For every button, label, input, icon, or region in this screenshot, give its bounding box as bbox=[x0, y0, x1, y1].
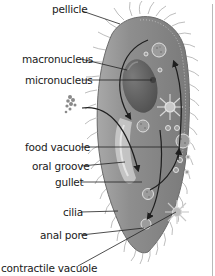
label-macronucleus: macronucleus bbox=[22, 53, 93, 65]
paramecium-diagram: pellicle macronucleus micronucleus food … bbox=[0, 0, 215, 276]
label-oral-groove: oral groove bbox=[32, 160, 90, 172]
food-particles bbox=[65, 95, 77, 113]
cell-body bbox=[97, 17, 189, 253]
label-food-vacuole: food vacuole bbox=[25, 141, 90, 153]
page-edge-rule bbox=[212, 4, 213, 276]
label-micronucleus: micronucleus bbox=[25, 74, 93, 86]
contractile-vacuole-bottom bbox=[165, 200, 189, 224]
label-pellicle: pellicle bbox=[52, 3, 87, 15]
label-contractile-vacuole: contractile vacuole bbox=[1, 262, 97, 274]
paramecium-illustration bbox=[0, 0, 215, 276]
label-anal-pore: anal pore bbox=[40, 229, 88, 241]
label-cilia: cilia bbox=[63, 206, 83, 218]
label-gullet: gullet bbox=[55, 176, 84, 188]
